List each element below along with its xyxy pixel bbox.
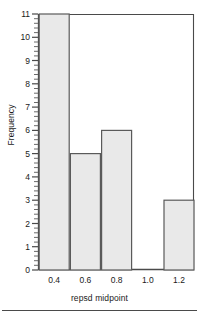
bottom-divider bbox=[2, 310, 197, 311]
x-axis-title: repsd midpoint bbox=[0, 293, 199, 303]
histogram-figure: Frequency 0 1 2 3 4 5 6 7 8 9 10 11 bbox=[0, 0, 199, 317]
x-tick-label-0: 0.4 bbox=[48, 275, 60, 285]
x-tick-label-3: 1.0 bbox=[142, 275, 154, 285]
x-tick-label-1: 0.6 bbox=[79, 275, 91, 285]
x-axis-tick-labels: 0.4 0.6 0.8 1.0 1.2 bbox=[0, 0, 199, 317]
x-tick-label-4: 1.2 bbox=[173, 275, 185, 285]
x-tick-label-2: 0.8 bbox=[111, 275, 123, 285]
